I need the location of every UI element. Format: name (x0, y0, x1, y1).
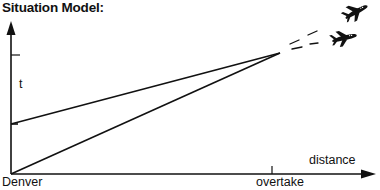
x-axis-arrow-icon (361, 170, 376, 179)
airplane-icon (329, 27, 359, 48)
origin-label: Denver (2, 175, 42, 189)
trajectory-extension-dashes (290, 31, 318, 49)
y-axis-arrow-icon (7, 21, 16, 35)
overtake-label: overtake (256, 175, 304, 189)
x-axis-label: distance (309, 153, 356, 167)
y-axis-label: t (19, 77, 22, 91)
airplane-icon (339, 0, 371, 26)
